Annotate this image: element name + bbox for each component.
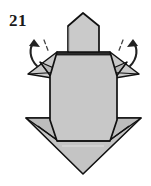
fold-guide-dash-left xyxy=(44,40,49,53)
fold-arrow-left-head xyxy=(29,39,40,47)
fold-guide-dash-right xyxy=(118,40,123,53)
head-shape xyxy=(68,13,99,52)
body-group xyxy=(50,52,117,141)
head-group xyxy=(68,13,99,52)
origami-step-figure: 21 xyxy=(0,0,151,186)
fold-arrow-right-head xyxy=(127,39,138,47)
origami-diagram xyxy=(0,0,151,186)
body-shape xyxy=(50,52,117,141)
